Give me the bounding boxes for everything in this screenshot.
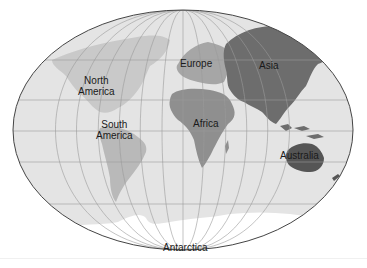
label-north-america-line1: North xyxy=(78,75,115,86)
label-south-america-line2: America xyxy=(96,130,133,141)
label-south-america: South America xyxy=(96,119,133,141)
label-asia: Asia xyxy=(259,60,278,71)
label-antarctica: Antarctica xyxy=(163,242,207,253)
label-australia: Australia xyxy=(280,150,319,161)
map-body xyxy=(0,10,367,260)
bottom-divider xyxy=(0,258,367,259)
label-north-america: North America xyxy=(78,75,115,97)
label-africa: Africa xyxy=(193,118,219,129)
label-europe: Europe xyxy=(180,58,212,69)
world-map xyxy=(0,0,367,268)
label-north-america-line2: America xyxy=(78,86,115,97)
label-south-america-line1: South xyxy=(96,119,133,130)
